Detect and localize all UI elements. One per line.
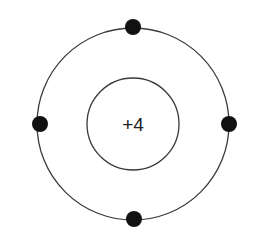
electron-right xyxy=(221,116,237,132)
electron-left xyxy=(32,116,48,132)
electron-top xyxy=(125,19,141,35)
nucleus-charge-label: +4 xyxy=(122,114,144,135)
atom-diagram: +4 xyxy=(0,0,256,242)
electron-bottom xyxy=(126,211,142,227)
